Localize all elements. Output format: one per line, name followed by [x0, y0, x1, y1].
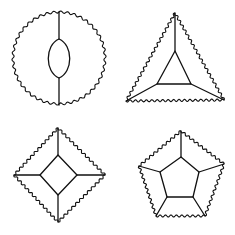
inner-lens	[48, 39, 69, 78]
inner-polygon	[160, 157, 199, 197]
spoke-edge	[193, 197, 205, 216]
diamond-diagram	[14, 128, 105, 222]
inner-polygon	[157, 51, 191, 84]
spoke-edge	[126, 84, 157, 101]
pentagon-diagram	[138, 131, 224, 217]
digon-circle-diagram	[12, 11, 106, 105]
polyhedra-diagram	[0, 0, 235, 235]
inner-polygon	[40, 155, 77, 195]
spoke-edge	[156, 197, 167, 216]
triangle-diagram	[126, 13, 224, 102]
spoke-edge	[139, 166, 160, 172]
